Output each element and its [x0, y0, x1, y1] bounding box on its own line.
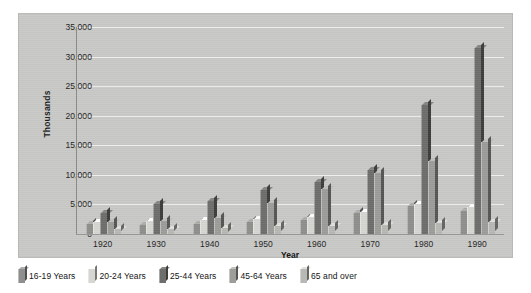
- bar: [221, 228, 228, 235]
- legend-item-2[interactable]: 20-24 Years: [88, 269, 145, 283]
- x-axis-title: Year: [281, 250, 299, 260]
- legend-item-4[interactable]: 45-64 Years: [229, 269, 286, 283]
- x-tick-label: 1970: [361, 239, 380, 249]
- bar-side-face: [488, 136, 491, 231]
- plot-area: [76, 27, 504, 234]
- bar-side-face: [281, 220, 284, 231]
- bar: [481, 142, 488, 234]
- legend-label: 20-24 Years: [99, 271, 145, 281]
- x-tick-label: 1960: [307, 239, 326, 249]
- legend-swatch-top-face: [160, 267, 170, 269]
- bar-side-face: [228, 222, 231, 232]
- chart-legend: 16-19 Years20-24 Years25-44 Years45-64 Y…: [18, 266, 513, 286]
- legend-swatch-icon: [18, 269, 25, 283]
- x-tick-label: 1980: [414, 239, 433, 249]
- bar: [114, 229, 121, 234]
- legend-swatch-icon: [88, 269, 95, 283]
- bar-group: [237, 27, 291, 234]
- bar-side-face: [442, 217, 445, 231]
- bar-side-face: [121, 223, 124, 231]
- bar-group: [183, 27, 237, 234]
- bar: [167, 229, 174, 234]
- bar: [328, 226, 335, 234]
- chart-panel: Thousands 05,00010,00015,00020,00025,000…: [18, 13, 513, 258]
- bar-side-face: [495, 216, 498, 231]
- bar-side-face: [174, 223, 177, 231]
- legend-item-5[interactable]: 65 and over: [300, 269, 357, 283]
- x-tick-label: 1950: [254, 239, 273, 249]
- x-tick-label: 1920: [93, 239, 112, 249]
- legend-item-1[interactable]: 16-19 Years: [18, 269, 75, 283]
- legend-label: 16-19 Years: [29, 271, 75, 281]
- x-tick-label: 1930: [147, 239, 166, 249]
- bar-group: [290, 27, 344, 234]
- chart-figure: Thousands 05,00010,00015,00020,00025,000…: [0, 0, 531, 293]
- legend-label: 65 and over: [311, 271, 357, 281]
- bar-side-face: [388, 219, 391, 231]
- bar: [274, 226, 281, 234]
- bar-side-face: [335, 220, 338, 231]
- legend-label: 25-44 Years: [170, 271, 216, 281]
- legend-swatch-top-face: [301, 267, 311, 269]
- bar-group: [344, 27, 398, 234]
- bar: [381, 225, 388, 234]
- x-axis-line: [76, 234, 504, 235]
- bar: [435, 223, 442, 234]
- legend-swatch-side-face: [25, 265, 27, 281]
- bar-group: [451, 27, 505, 234]
- legend-swatch-side-face: [166, 265, 168, 281]
- legend-swatch-icon: [229, 269, 236, 283]
- bar-group: [130, 27, 184, 234]
- x-tick-label: 1940: [200, 239, 219, 249]
- x-tick-label: 1990: [468, 239, 487, 249]
- bar-group: [397, 27, 451, 234]
- legend-swatch-icon: [300, 269, 307, 283]
- legend-item-3[interactable]: 25-44 Years: [159, 269, 216, 283]
- legend-swatch-top-face: [19, 267, 29, 269]
- legend-label: 45-64 Years: [240, 271, 286, 281]
- bar: [488, 222, 495, 234]
- legend-swatch-icon: [159, 269, 166, 283]
- bar-group: [76, 27, 130, 234]
- legend-swatch-side-face: [307, 265, 309, 281]
